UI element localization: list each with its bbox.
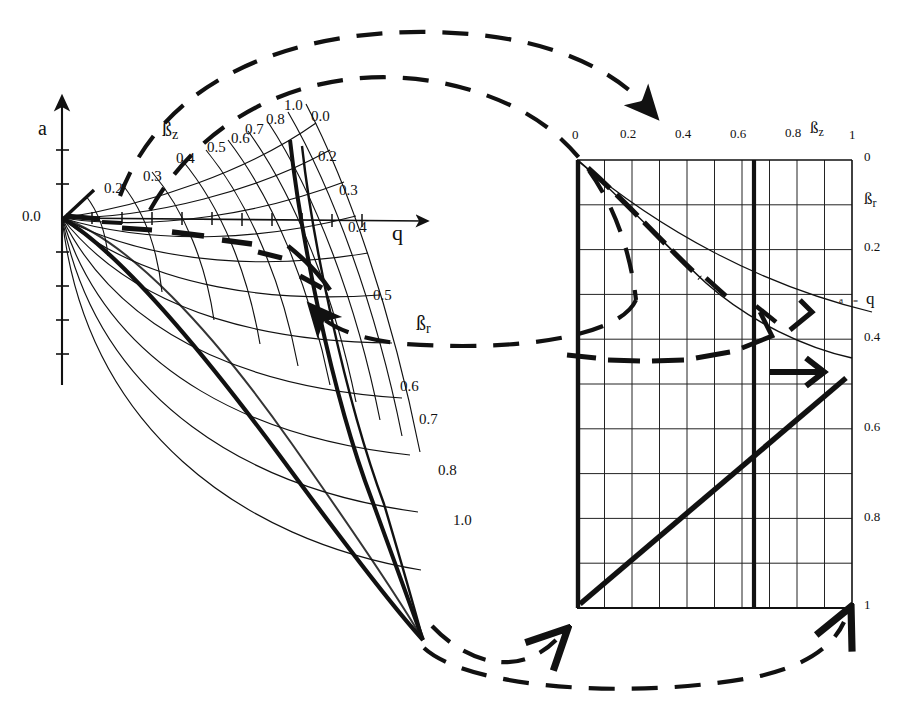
axis-q <box>62 218 424 221</box>
br-level-label: 1.0 <box>453 513 472 528</box>
flow-arc-upper <box>120 32 650 196</box>
inset-mapping-curve <box>579 161 852 358</box>
axis-label-a: a <box>38 118 47 138</box>
br-level-label: 0.3 <box>339 183 358 198</box>
bz-level-label: 0.8 <box>266 112 285 127</box>
bz-level-label: 0.4 <box>176 151 195 166</box>
inset-bz-subscript: z <box>819 125 824 139</box>
family-br-glyph: ß <box>416 312 426 334</box>
axis-label-q: q <box>392 222 403 244</box>
br-level-label: 0.4 <box>348 220 367 235</box>
br-level-label: 0.8 <box>438 463 457 478</box>
flow-arc-bottom-right <box>424 622 844 689</box>
inset-chart <box>567 160 872 608</box>
inset-top-tick: 0 <box>572 128 579 141</box>
inset-right-tick: 0.8 <box>864 510 880 523</box>
bz-level-label: 0.7 <box>245 122 264 137</box>
inset-top-tick: 0.4 <box>675 127 691 140</box>
inset-top-tick: 1 <box>849 128 856 141</box>
family-label-br: ßr <box>416 313 431 336</box>
bz-level-label: 0.3 <box>143 169 162 184</box>
inset-annot-equals: = <box>853 297 858 306</box>
inset-bold-diagonal <box>580 378 846 604</box>
br-level-label: 0.2 <box>318 149 337 164</box>
inset-top-axis-label: ßz <box>810 119 824 138</box>
family-br-subscript: r <box>426 321 431 336</box>
br-level-label: 0.5 <box>373 288 392 303</box>
inset-br-glyph: ß <box>864 189 873 208</box>
family-label-bz: ßz <box>162 119 178 142</box>
inset-annot-a: a <box>839 296 843 305</box>
family-bz-subscript: z <box>172 127 178 142</box>
figure-root: a q 0.0 ßz ßr 0.2 0.3 0.4 0.5 0.6 0.7 0.… <box>0 0 908 701</box>
diagram-canvas <box>0 0 908 701</box>
inset-right-tick: 0.6 <box>864 420 880 433</box>
inset-right-tick: 1 <box>864 598 871 611</box>
inset-right-tick: 0 <box>864 150 871 163</box>
inset-top-tick: 0.8 <box>785 126 801 139</box>
bz-level-label: 0.2 <box>104 181 123 196</box>
inset-right-tick: 0.2 <box>864 240 880 253</box>
family-bz-glyph: ß <box>162 118 172 140</box>
inset-top-tick: 0.6 <box>730 127 746 140</box>
flow-arc-mid <box>150 77 636 300</box>
inset-right-axis-label: ßr <box>864 190 877 209</box>
bz-level-label: 1.0 <box>284 98 303 113</box>
origin-tick-label: 0.0 <box>22 209 41 224</box>
inset-br-subscript: r <box>873 196 877 210</box>
br-level-label: 0.7 <box>419 412 438 427</box>
inset-right-tick: 0.4 <box>864 330 880 343</box>
br-level-label: 0.0 <box>311 109 330 124</box>
inset-top-tick: 0.2 <box>620 127 636 140</box>
inset-dashed-band <box>567 352 730 361</box>
inset-annot-q: q <box>866 290 875 307</box>
inset-a-equals-q-line <box>578 161 872 312</box>
flow-arc-bottom-left <box>432 626 556 662</box>
bz-level-label: 0.5 <box>207 140 226 155</box>
br-level-label: 0.6 <box>400 379 419 394</box>
inset-bz-glyph: ß <box>810 118 819 137</box>
